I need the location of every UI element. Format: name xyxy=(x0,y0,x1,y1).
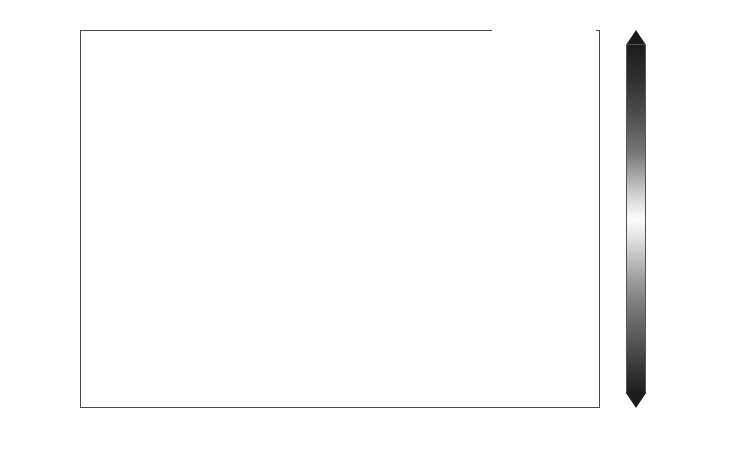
colorbar-extend-bottom-icon xyxy=(626,393,646,408)
colorbar-extend-top-icon xyxy=(626,30,646,45)
colorbar-gradient xyxy=(626,44,646,394)
colorbar xyxy=(626,30,646,408)
plot-area xyxy=(81,31,599,407)
legend xyxy=(492,26,596,35)
plot-axes xyxy=(80,30,600,408)
chart-root xyxy=(0,0,732,473)
